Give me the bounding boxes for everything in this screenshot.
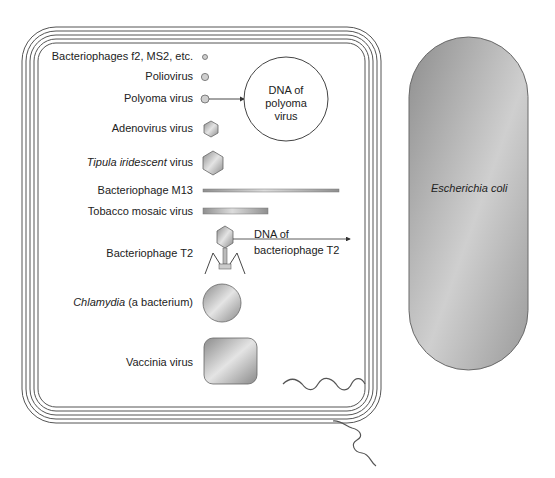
escherichia-coli-label: Escherichia coli — [431, 182, 507, 194]
label-poliovirus: Poliovirus — [3, 70, 193, 83]
label-tipula-iridescent-virus: Tipula iridescent virus — [3, 156, 193, 169]
chlamydia-shape — [203, 284, 241, 322]
adenovirus-shape — [204, 121, 218, 137]
polyoma-virus-shape — [201, 95, 209, 103]
bacteriophage-m13-shape — [203, 189, 339, 192]
label-chlamydia: Chlamydia (a bacterium) — [3, 296, 193, 309]
label-bacteriophage-m13: Bacteriophage M13 — [3, 184, 193, 197]
inner-wavy-strand — [283, 378, 365, 390]
bacteriophage-t2-shape — [205, 226, 245, 274]
label-bacteriophages-f2: Bacteriophages f2, MS2, etc. — [3, 50, 193, 63]
tipula-iridescent-virus-shape — [203, 151, 223, 175]
label-tobacco-mosaic-virus: Tobacco mosaic virus — [3, 205, 193, 218]
tobacco-mosaic-virus-shape — [203, 208, 268, 214]
escherichia-coli-cell — [409, 37, 528, 370]
vaccinia-virus-shape — [204, 338, 257, 384]
t2-dna-label: DNA of bacteriophage T2 — [254, 226, 339, 258]
label-polyoma-virus: Polyoma virus — [3, 92, 193, 105]
poliovirus-shape — [201, 73, 208, 80]
polyoma-dna-label: DNA of polyoma virus — [246, 84, 326, 123]
label-bacteriophage-t2: Bacteriophage T2 — [3, 247, 193, 260]
flagellum — [333, 421, 376, 466]
label-vaccinia-virus: Vaccinia virus — [3, 356, 193, 369]
label-adenovirus: Adenovirus virus — [3, 122, 193, 135]
bacteriophage-f2-shape — [203, 55, 208, 60]
